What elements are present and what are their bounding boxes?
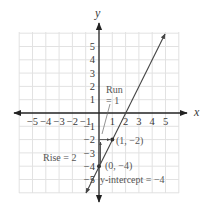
rise-label: Rise = 2: [43, 152, 76, 163]
svg-text:4: 4: [150, 116, 156, 127]
run-value-label: = 1: [106, 95, 119, 106]
svg-text:4: 4: [90, 54, 96, 65]
svg-text:1: 1: [110, 116, 115, 127]
svg-text:2: 2: [90, 81, 95, 92]
svg-text:5: 5: [163, 116, 168, 127]
x-axis-label: x: [193, 105, 200, 119]
point-1-neg2-label: (1, −2): [116, 135, 143, 147]
svg-text:3: 3: [136, 116, 141, 127]
svg-text:−2: −2: [67, 116, 78, 127]
y-axis-label: y: [94, 6, 101, 20]
svg-text:−4: −4: [40, 116, 52, 127]
coordinate-plane: x y −5 −4 −3 −2 −1 1 2 3 4 5 5 4 3 2 1 −…: [0, 0, 205, 213]
point-0-neg5-marker: [91, 178, 94, 181]
svg-text:−2: −2: [84, 134, 95, 145]
point-1-neg2: [110, 138, 114, 142]
svg-text:−1: −1: [84, 121, 95, 132]
x-tick-labels: −5 −4 −3 −2 −1 1 2 3 4 5: [27, 116, 168, 127]
svg-text:1: 1: [90, 94, 95, 105]
svg-text:5: 5: [90, 41, 95, 52]
svg-text:−4: −4: [84, 161, 96, 172]
point-0-neg4-label: (0, −4): [105, 160, 132, 172]
svg-text:−5: −5: [27, 116, 38, 127]
y-intercept-label: y-intercept = −4: [100, 174, 165, 185]
point-0-neg4: [97, 164, 101, 168]
svg-text:−3: −3: [84, 148, 95, 159]
svg-text:3: 3: [90, 68, 95, 79]
svg-text:−3: −3: [54, 116, 65, 127]
run-label: Run: [106, 84, 123, 95]
